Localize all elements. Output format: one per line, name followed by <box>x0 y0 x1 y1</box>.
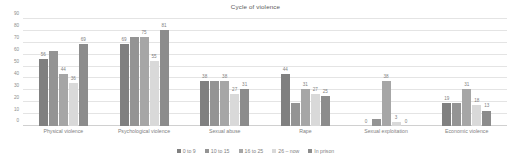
plot-area: 5644366969755581383827314431272503830193… <box>23 19 507 126</box>
bar[interactable] <box>442 103 451 126</box>
bar[interactable] <box>482 111 491 126</box>
legend-label: 26 – now <box>278 148 299 154</box>
legend-item[interactable]: 16 to 25 <box>239 148 264 154</box>
bar[interactable] <box>49 51 58 126</box>
legend-label: 16 to 25 <box>245 148 264 154</box>
bar-value-label: 3 <box>395 116 398 121</box>
bar-slot: 27 <box>311 19 320 126</box>
bar[interactable] <box>39 59 48 126</box>
bar[interactable] <box>392 122 401 126</box>
legend-item[interactable]: In prison <box>308 148 334 154</box>
bar-slot: 0 <box>362 19 371 126</box>
y-axis-tick-label: 90 <box>14 12 19 17</box>
bar[interactable] <box>150 61 159 126</box>
bar-slot: 0 <box>402 19 411 126</box>
bar-group: 38382731 <box>184 19 265 126</box>
bar[interactable] <box>301 89 310 126</box>
bar-value-label: 55 <box>151 55 156 60</box>
x-axis-category-label: Rape <box>265 128 346 134</box>
x-axis-category-label: Economic violence <box>426 128 507 134</box>
bar-slot: 44 <box>59 19 68 126</box>
bar-group-bars: 69755581 <box>104 19 185 126</box>
bar-group: 44312725 <box>265 19 346 126</box>
bar-value-label: 0 <box>365 120 368 125</box>
y-axis-tick-label: 70 <box>14 36 19 41</box>
legend-item[interactable]: 10 to 15 <box>205 148 230 154</box>
chart-legend: 0 to 910 to 1516 to 2526 – nowIn prison <box>0 148 511 154</box>
bar[interactable] <box>281 74 290 126</box>
bar[interactable] <box>291 103 300 126</box>
bar[interactable] <box>69 83 78 126</box>
bar-group-bars: 44312725 <box>265 19 346 126</box>
bar-slot: 19 <box>442 19 451 126</box>
bar-value-label: 38 <box>202 75 207 80</box>
bar-slot: 13 <box>482 19 491 126</box>
bar-groups: 5644366969755581383827314431272503830193… <box>23 19 507 126</box>
bar[interactable] <box>240 89 249 126</box>
bar-value-label: 69 <box>121 38 126 43</box>
bar-slot <box>130 19 139 126</box>
bar-value-label: 31 <box>303 83 308 88</box>
bar-value-label: 31 <box>242 83 247 88</box>
bar[interactable] <box>311 94 320 126</box>
bar[interactable] <box>120 44 129 126</box>
legend-swatch-icon <box>308 149 312 153</box>
bar[interactable] <box>230 94 239 126</box>
bar-group: 19311813 <box>426 19 507 126</box>
bar-group: 56443669 <box>23 19 104 126</box>
bar-slot: 18 <box>472 19 481 126</box>
x-axis-category-label: Sexual abuse <box>184 128 265 134</box>
y-axis-tick-label: 10 <box>14 107 19 112</box>
y-axis-tick-label: 0 <box>16 119 19 124</box>
bar-value-label: 81 <box>161 24 166 29</box>
y-axis-tick-label: 60 <box>14 48 19 53</box>
x-axis-category-labels: Physical violencePsychological violenceS… <box>23 128 507 134</box>
bar-value-label: 19 <box>444 97 449 102</box>
bar[interactable] <box>160 30 169 126</box>
bar-group-bars: 19311813 <box>426 19 507 126</box>
y-axis-tick-label: 30 <box>14 83 19 88</box>
bar-slot: 44 <box>281 19 290 126</box>
bar-value-label: 27 <box>313 88 318 93</box>
bar[interactable] <box>59 74 68 126</box>
bar[interactable] <box>220 81 229 126</box>
bar-slot: 69 <box>120 19 129 126</box>
bar[interactable] <box>472 105 481 126</box>
legend-swatch-icon <box>272 149 276 153</box>
bar-slot <box>452 19 461 126</box>
bar-group-bars: 38382731 <box>184 19 265 126</box>
bar[interactable] <box>372 119 381 126</box>
bar-value-label: 13 <box>484 104 489 109</box>
y-axis-tick-label: 40 <box>14 72 19 77</box>
bar[interactable] <box>462 89 471 126</box>
bar-value-label: 38 <box>383 75 388 80</box>
bar[interactable] <box>79 44 88 126</box>
bar[interactable] <box>210 81 219 126</box>
legend-item[interactable]: 26 – now <box>272 148 299 154</box>
bar[interactable] <box>200 81 209 126</box>
bar-slot <box>210 19 219 126</box>
bar-value-label: 38 <box>222 75 227 80</box>
bar-value-label: 44 <box>61 68 66 73</box>
bar[interactable] <box>140 37 149 126</box>
bar-slot: 55 <box>150 19 159 126</box>
legend-item[interactable]: 0 to 9 <box>177 148 196 154</box>
bar-slot: 56 <box>39 19 48 126</box>
bar-value-label: 44 <box>283 68 288 73</box>
bar[interactable] <box>452 103 461 126</box>
y-axis-tick-label: 20 <box>14 95 19 100</box>
bar[interactable] <box>130 37 139 126</box>
bar-slot <box>372 19 381 126</box>
bar-slot: 75 <box>140 19 149 126</box>
bar[interactable] <box>321 96 330 126</box>
bar-slot: 31 <box>462 19 471 126</box>
bar-slot <box>49 19 58 126</box>
bar-value-label: 75 <box>141 31 146 36</box>
bar-value-label: 0 <box>405 120 408 125</box>
bar-value-label: 31 <box>464 83 469 88</box>
bar-value-label: 25 <box>323 90 328 95</box>
x-axis-category-label: Physical violence <box>23 128 104 134</box>
bar[interactable] <box>382 81 391 126</box>
bar-slot: 81 <box>160 19 169 126</box>
bar-group: 69755581 <box>104 19 185 126</box>
